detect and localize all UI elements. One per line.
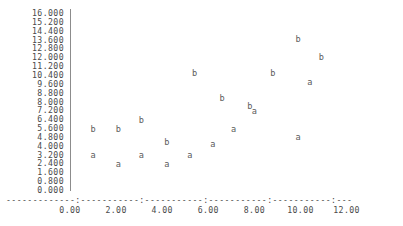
data-point-b: b: [189, 68, 199, 78]
x-axis-tick-labels: 0.002.004.006.008.0010.0012.00: [0, 205, 403, 217]
data-point-a: a: [305, 77, 315, 87]
data-point-b: b: [217, 93, 227, 103]
x-tick-label: 12.00: [317, 205, 377, 215]
data-point-b: b: [293, 34, 303, 44]
data-point-a: a: [229, 124, 239, 134]
data-point-a: a: [293, 132, 303, 142]
data-point-layer: aaaaaaaaaabbbbbbbbbb: [0, 0, 403, 196]
data-point-b: b: [136, 115, 146, 125]
data-point-a: a: [162, 159, 172, 169]
data-point-a: a: [88, 150, 98, 160]
data-point-b: b: [268, 68, 278, 78]
data-point-b: b: [88, 124, 98, 134]
data-point-a: a: [113, 159, 123, 169]
data-point-b: b: [113, 124, 123, 134]
data-point-a: a: [185, 150, 195, 160]
x-axis-line: -------------:-----------:-----------:--…: [6, 196, 352, 205]
data-point-a: a: [208, 139, 218, 149]
data-point-a: a: [136, 150, 146, 160]
data-point-b: b: [316, 52, 326, 62]
data-point-b: b: [245, 101, 255, 111]
data-point-b: b: [162, 137, 172, 147]
scatter-plot-figure: 16.00015.20014.40013.60012.80012.00011.2…: [0, 0, 403, 226]
